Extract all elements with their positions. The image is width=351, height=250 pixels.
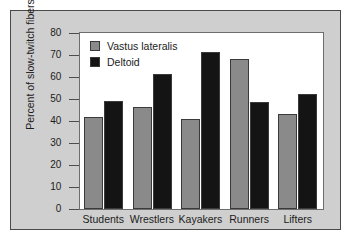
x-axis-label-students: Students — [79, 214, 128, 225]
y-axis-tick-label: 50 — [37, 94, 61, 104]
legend-item-deltoid[interactable]: Deltoid — [90, 55, 177, 69]
figure-panel: Percent of slow-twitch fibers 0102030405… — [10, 10, 341, 230]
bar-group — [226, 33, 275, 209]
bar-lifters-deltoid[interactable] — [298, 94, 317, 210]
x-axis-label-wrestlers: Wrestlers — [128, 214, 177, 225]
bar-lifters-vastus-lateralis[interactable] — [278, 114, 297, 209]
x-axis-label-lifters: Lifters — [273, 214, 322, 225]
bar-students-vastus-lateralis[interactable] — [84, 117, 103, 209]
bar-group — [177, 33, 226, 209]
y-axis-tick-label: 0 — [37, 204, 61, 214]
legend-swatch — [90, 41, 100, 51]
plot-area: Vastus lateralisDeltoid — [79, 32, 324, 210]
bar-kayakers-vastus-lateralis[interactable] — [181, 119, 200, 209]
y-axis-tick — [69, 121, 79, 122]
y-axis-tick — [69, 55, 79, 56]
y-axis-tick — [69, 187, 79, 188]
legend-item-vastus-lateralis[interactable]: Vastus lateralis — [90, 39, 177, 53]
chart-legend: Vastus lateralisDeltoid — [90, 39, 177, 71]
bar-group — [274, 33, 323, 209]
y-axis-tick — [69, 77, 79, 78]
bar-kayakers-deltoid[interactable] — [201, 52, 220, 209]
y-axis-tick-label: 20 — [37, 160, 61, 170]
y-axis-tick-label: 70 — [37, 50, 61, 60]
y-axis-title: Percent of slow-twitch fibers — [25, 0, 36, 140]
bar-runners-vastus-lateralis[interactable] — [230, 59, 249, 209]
y-axis-tick-label: 10 — [37, 182, 61, 192]
y-axis-tick-label: 60 — [37, 72, 61, 82]
legend-label: Deltoid — [107, 57, 140, 68]
bar-students-deltoid[interactable] — [104, 101, 123, 209]
legend-swatch — [90, 57, 100, 67]
y-axis-tick-label: 80 — [37, 28, 61, 38]
bar-wrestlers-vastus-lateralis[interactable] — [133, 107, 152, 209]
bar-runners-deltoid[interactable] — [250, 102, 269, 209]
y-axis-tick-label: 30 — [37, 138, 61, 148]
y-axis-tick — [69, 33, 79, 34]
y-axis-tick — [69, 143, 79, 144]
legend-label: Vastus lateralis — [107, 41, 177, 52]
y-axis-tick — [69, 209, 79, 210]
y-axis-tick — [69, 165, 79, 166]
y-axis-tick-label: 40 — [37, 116, 61, 126]
y-axis-tick — [69, 99, 79, 100]
bar-wrestlers-deltoid[interactable] — [153, 74, 172, 209]
x-axis-label-runners: Runners — [225, 214, 274, 225]
x-axis-label-kayakers: Kayakers — [176, 214, 225, 225]
